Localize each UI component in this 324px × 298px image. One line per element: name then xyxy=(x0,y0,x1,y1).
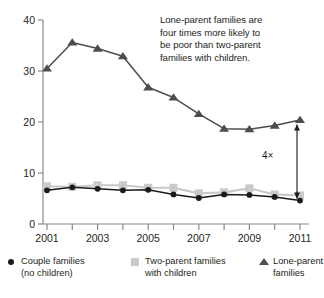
legend-label-line2: with children xyxy=(145,268,226,280)
circle-marker-icon xyxy=(7,256,18,268)
legend-item-two-parent-families: Two-parent families with children xyxy=(131,256,259,279)
annotation-line-2: four times more likely to xyxy=(160,27,318,40)
annotation-textbox: Lone-parent families are four times more… xyxy=(160,14,318,64)
y-tick-label: 40 xyxy=(23,14,35,26)
legend-label-two-parent-families: Two-parent families with children xyxy=(145,256,226,279)
legend-label-line2: (no children) xyxy=(21,268,85,280)
legend-label-lone-parent-families: Lone-parent families xyxy=(273,256,323,279)
legend-item-lone-parent-families: Lone-parent families xyxy=(259,256,321,279)
legend-label-line1: Couple families xyxy=(21,256,85,268)
y-tick-label: 20 xyxy=(23,116,35,128)
legend-item-couple-families: Couple families (no children) xyxy=(7,256,131,279)
annotation-line-3: be poor than two-parent xyxy=(160,39,318,52)
x-tick-label: 2001 xyxy=(35,232,59,244)
x-tick-label: 2009 xyxy=(238,232,262,244)
legend-label-couple-families: Couple families (no children) xyxy=(21,256,85,279)
y-tick-label: 30 xyxy=(23,65,35,77)
square-marker-icon xyxy=(131,256,142,268)
annotation-line-4: families with children. xyxy=(160,52,318,65)
poverty-rate-line-chart: 010203040200120032005200720092011 Lone-p… xyxy=(0,0,324,298)
legend-label-line1: Two-parent families xyxy=(145,256,226,268)
multiplier-label: 4× xyxy=(262,150,273,161)
annotation-line-1: Lone-parent families are xyxy=(160,14,318,27)
y-tick-label: 10 xyxy=(23,167,35,179)
y-tick-label: 0 xyxy=(29,218,35,230)
multiplier-arrow xyxy=(294,125,300,199)
triangle-marker-icon xyxy=(259,256,270,268)
x-tick-label: 2007 xyxy=(187,232,211,244)
x-tick-label: 2005 xyxy=(137,232,161,244)
x-tick-label: 2011 xyxy=(289,232,312,244)
legend-label-line1: Lone-parent xyxy=(273,256,323,268)
legend-label-line2: families xyxy=(273,268,323,280)
x-tick-label: 2003 xyxy=(86,232,110,244)
chart-legend: Couple families (no children) Two-parent… xyxy=(0,256,324,279)
